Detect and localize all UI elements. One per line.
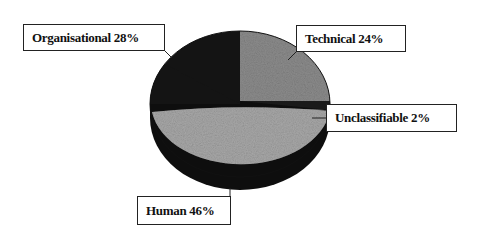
label-technical: Technical 24% (296, 25, 406, 52)
label-human: Human 46% (137, 196, 231, 225)
label-unclassifiable: Unclassifiable 2% (326, 104, 457, 132)
label-organisational: Organisational 28% (23, 24, 165, 51)
